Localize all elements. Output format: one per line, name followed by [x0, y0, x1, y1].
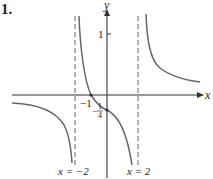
y-intercept-point	[105, 108, 108, 111]
x-axis-label: x	[204, 88, 211, 102]
y-intercept-sign: −	[92, 106, 97, 116]
y-tick-label-1: 1	[98, 28, 104, 40]
curve-left-branch	[12, 103, 72, 163]
curve-middle-branch	[79, 16, 132, 165]
asymptote-left-label: x = −2	[57, 165, 89, 177]
y-axis-label: y	[103, 0, 110, 12]
x-intercept-label: −1	[80, 97, 92, 109]
rational-function-graph: x y 1 −1 − 1 4 x = −2 x = 2	[0, 0, 213, 179]
curve-right-branch	[146, 14, 200, 82]
y-intercept-numerator: 1	[98, 102, 102, 111]
asymptote-right-label: x = 2	[126, 165, 151, 177]
y-intercept-denominator: 4	[98, 111, 102, 120]
